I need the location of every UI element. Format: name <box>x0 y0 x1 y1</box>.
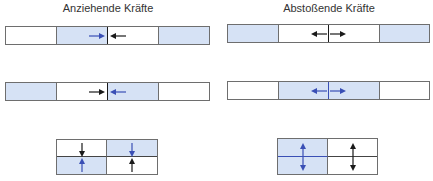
arrow-up-icon <box>349 143 357 157</box>
bar-cell <box>57 83 108 100</box>
repulsive-grid <box>277 138 378 175</box>
bar-cell <box>108 27 159 44</box>
bar-cell <box>380 25 430 42</box>
arrow-right-icon <box>330 87 346 95</box>
bar-cell <box>329 25 380 42</box>
attractive-bar-1 <box>5 26 210 45</box>
repulsive-bar-2 <box>227 81 430 100</box>
bar-cell <box>228 25 279 42</box>
arrow-right-icon <box>330 30 346 38</box>
bar-cell <box>159 27 209 44</box>
bar-cell <box>159 83 209 100</box>
grid-cell <box>278 157 328 175</box>
title-attractive-forces: Anziehende Kräfte <box>52 2 164 14</box>
arrow-left-icon <box>110 88 126 96</box>
bar-cell <box>108 83 159 100</box>
arrow-left-icon <box>311 30 327 38</box>
arrow-down-icon <box>299 157 307 171</box>
arrow-down-icon <box>128 143 136 157</box>
bar-cell <box>6 27 57 44</box>
arrow-up-icon <box>128 158 136 172</box>
grid-cell <box>107 140 157 157</box>
bar-cell <box>279 82 330 99</box>
arrow-right-icon <box>89 32 105 40</box>
arrow-down-icon <box>349 157 357 171</box>
bar-cell <box>279 25 330 42</box>
title-repulsive-forces: Abstoßende Kräfte <box>273 2 385 14</box>
bar-cell <box>329 82 380 99</box>
grid-cell <box>57 157 107 174</box>
arrow-left-icon <box>311 87 327 95</box>
grid-cell <box>278 139 328 157</box>
arrow-up-icon <box>299 143 307 157</box>
grid-cell <box>57 140 107 157</box>
bar-cell <box>228 82 279 99</box>
attractive-grid <box>56 139 158 175</box>
arrow-down-icon <box>78 143 86 157</box>
bar-cell <box>6 83 57 100</box>
arrow-up-icon <box>78 158 86 172</box>
arrow-left-icon <box>110 32 126 40</box>
bar-cell <box>380 82 430 99</box>
arrow-right-icon <box>89 88 105 96</box>
grid-cell <box>107 157 157 174</box>
attractive-bar-2 <box>5 82 210 101</box>
bar-cell <box>57 27 108 44</box>
grid-cell <box>328 139 378 157</box>
repulsive-bar-1 <box>227 24 430 43</box>
grid-cell <box>328 157 378 175</box>
